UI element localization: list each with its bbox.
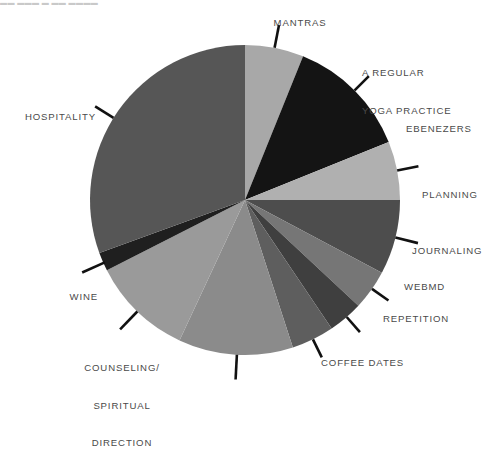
yoga-label-line-1: A REGULAR — [362, 67, 480, 80]
leader-line — [372, 289, 389, 301]
leader-line — [95, 106, 113, 118]
leader-line — [120, 312, 137, 330]
slice-label-mantras: MANTRAS — [238, 4, 348, 42]
slice-label-repetition: REPETITION — [369, 300, 459, 338]
leader-line — [236, 355, 237, 380]
counseling-label-line-3: DIRECTION — [58, 437, 186, 450]
slice-label-wine: WINE — [18, 278, 98, 316]
slice-label-hospitality: HOSPITALITY — [0, 98, 96, 136]
slice-label-planning: PLANNING — [408, 176, 486, 214]
slice-label-ebenezers: EBENEZERS — [392, 110, 482, 148]
leader-line — [347, 317, 360, 332]
counseling-label-line-1: COUNSELING/ — [58, 362, 186, 375]
leader-line — [82, 262, 105, 272]
pie-slices-group — [90, 45, 400, 355]
slice-label-journaling: JOURNALING — [398, 232, 486, 270]
counseling-label-line-2: SPIRITUAL — [58, 400, 186, 413]
slice-label-counseling-spiritual-direction: COUNSELING/ SPIRITUAL DIRECTION — [58, 337, 186, 450]
slice-label-coffee-dates: COFFEE DATES — [307, 344, 417, 382]
leader-line — [397, 166, 418, 170]
